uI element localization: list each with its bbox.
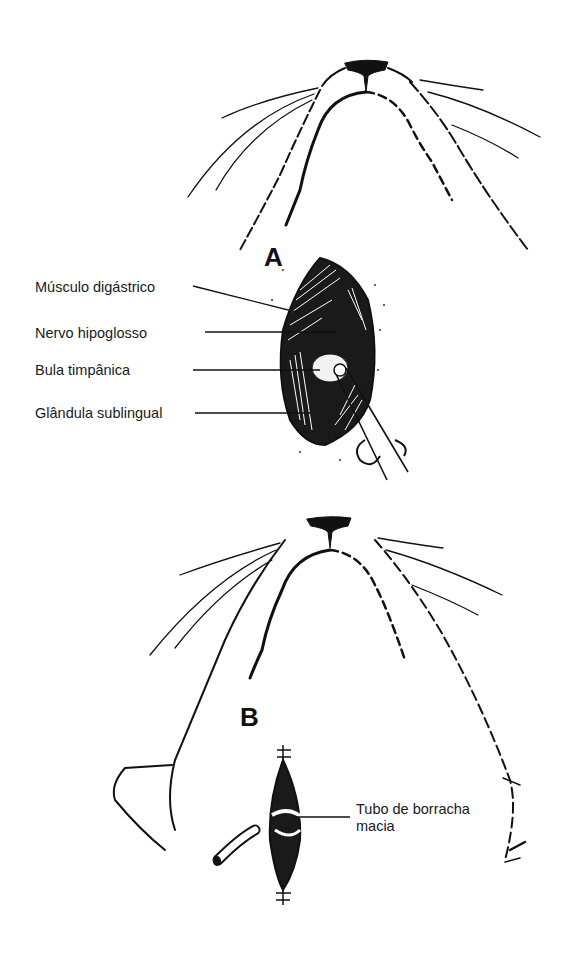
label-musculo-digastrico: Músculo digástrico: [35, 279, 155, 296]
incision-a-drawing: [271, 258, 385, 461]
label-bula-timpanica: Bula timpânica: [35, 362, 130, 379]
label-tubo-de-borracha: Tubo de borracha macia: [356, 801, 470, 834]
incision-b-drawing: [270, 745, 305, 905]
rubber-tube-icon: [213, 830, 255, 866]
label-glandula-sublingual: Glândula sublingual: [35, 405, 162, 422]
illustration-canvas: [0, 0, 572, 957]
panel-letter-b: B: [240, 702, 259, 733]
label-nervo-hipoglosso: Nervo hipoglosso: [35, 325, 147, 342]
label-tubo-line2: macia: [356, 818, 470, 835]
panel-letter-a: A: [264, 242, 283, 273]
label-tubo-line1: Tubo de borracha: [356, 801, 470, 818]
cat-chin-drawing-a: [188, 60, 540, 250]
